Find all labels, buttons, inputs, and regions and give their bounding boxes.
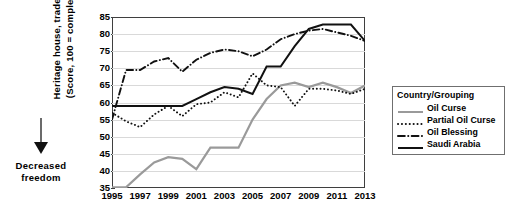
- legend-title: Country/Grouping: [397, 90, 500, 100]
- y-axis-tick-label: 75: [84, 45, 110, 56]
- y-axis-tick-label: 80: [84, 28, 110, 39]
- legend-entry[interactable]: Saudi Arabia: [397, 138, 500, 150]
- y-axis-tick-label: 55: [84, 114, 110, 125]
- decreased-freedom-label: Decreased freedom: [2, 160, 80, 184]
- decreased-freedom-line-2: freedom: [2, 172, 80, 184]
- y-axis-tick-label: 70: [84, 62, 110, 73]
- y-axis-tick-mark: [111, 188, 115, 189]
- y-axis-tick-label: 45: [84, 148, 110, 159]
- legend-swatch-oil-blessing: [397, 127, 424, 137]
- legend-label: Oil Curse: [427, 103, 466, 113]
- legend-entry[interactable]: Partial Oil Curse: [397, 114, 500, 126]
- y-axis-title: Heritage house, trade freedom (Score, 10…: [49, 0, 77, 113]
- series-line-partial-oil-curse: [112, 73, 365, 127]
- legend-entry[interactable]: Oil Blessing: [397, 126, 500, 138]
- decreased-freedom-annotation: Decreased freedom: [2, 118, 80, 184]
- series-line-saudi-arabia: [112, 25, 365, 106]
- legend-swatch-saudi-arabia: [397, 139, 424, 149]
- y-axis-title-line-2: (Score, 100 = completely free): [63, 0, 76, 98]
- y-axis-tick-label: 85: [84, 11, 110, 22]
- legend-label: Saudi Arabia: [427, 139, 480, 149]
- down-arrow-icon: [33, 118, 49, 154]
- legend-swatch-partial-oil-curse: [397, 115, 424, 125]
- decreased-freedom-line-1: Decreased: [2, 160, 80, 172]
- series-line-oil-curse: [112, 83, 365, 188]
- legend: Country/Grouping Oil CursePartial Oil Cu…: [392, 86, 505, 155]
- y-axis-tick-label: 65: [84, 79, 110, 90]
- chart-figure: Decreased freedom Heritage house, trade …: [0, 0, 509, 224]
- legend-label: Partial Oil Curse: [427, 115, 495, 125]
- y-axis-tick-label: 40: [84, 165, 110, 176]
- x-axis-tick-labels: 1995199719992001200320052007200920112013: [112, 190, 365, 206]
- y-axis-tick-label: 50: [84, 131, 110, 142]
- y-axis-tick-labels: 3540455055606570758085: [84, 17, 110, 188]
- legend-entries: Oil CursePartial Oil CurseOil BlessingSa…: [397, 102, 500, 150]
- plot-area: [112, 17, 365, 188]
- legend-swatch-oil-curse: [397, 103, 424, 113]
- legend-entry[interactable]: Oil Curse: [397, 102, 500, 114]
- data-series-layer: [112, 17, 365, 188]
- legend-label: Oil Blessing: [427, 127, 478, 137]
- y-axis-tick-label: 60: [84, 97, 110, 108]
- x-axis-tick-label: 2013: [348, 190, 382, 201]
- y-axis-title-line-1: Heritage house, trade freedom: [50, 0, 63, 100]
